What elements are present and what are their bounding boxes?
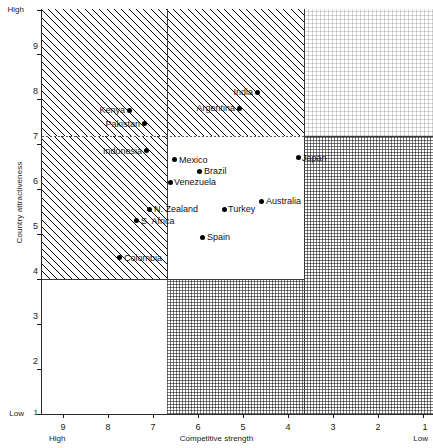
data-point-argentina[interactable] [237,106,242,111]
y-tick-9: 9 [2,42,38,51]
data-point-venezuela[interactable] [168,180,173,185]
data-point-label-brazil: Brazil [204,167,227,176]
x-axis-title: Competitive strength [0,434,433,443]
data-point-safrica[interactable] [134,218,139,223]
data-point-kenya[interactable] [127,108,132,113]
y-axis-ticks: High Low 9 8 7 6 5 4 3 2 1 [0,0,38,448]
data-point-label-turkey: Turkey [228,205,255,214]
data-point-turkey[interactable] [222,207,227,212]
x-tick-5: 5 [231,422,255,432]
data-point-label-spain: Spain [207,233,230,242]
plot-area: Kenya Pakistan Indonesia India Argentina… [41,9,433,415]
y-tick-8: 8 [2,87,38,96]
data-point-label-nzealand: N. Zealand [154,205,198,214]
y-tick-4: 4 [2,267,38,276]
data-point-spain[interactable] [200,235,205,240]
x-tick-6: 6 [186,422,210,432]
data-point-label-safrica: S. Africa [141,216,175,225]
zone-harvest-divest-lower [167,279,304,414]
zone-divider-vertical-right [304,9,305,414]
zone-divider-horizontal-low [42,279,304,280]
y-tick-7: 7 [2,132,38,141]
x-tick-1: 1 [413,422,433,432]
y-axis-top-label: High [8,5,24,14]
y-tick-5: 5 [2,222,38,231]
data-point-label-kenya: Kenya [99,106,125,115]
data-point-label-pakistan: Pakistan [105,119,140,128]
x-tick-8: 8 [96,422,120,432]
data-point-japan[interactable] [296,155,301,160]
zone-divider-vertical-mid [167,9,168,279]
country-portfolio-matrix-chart: Country attractiveness High Low 9 8 7 6 … [0,0,433,448]
zone-harvest-divest-right [304,136,433,414]
data-point-mexico[interactable] [172,157,177,162]
data-point-label-india: India [233,88,253,97]
data-point-label-mexico: Mexico [179,155,208,164]
y-tick-6: 6 [2,177,38,186]
x-tick-4: 4 [276,422,300,432]
data-point-label-colombia: Colombia [124,253,162,262]
data-point-label-venezuela: Venezuela [174,178,216,187]
zone-dominate-licence [304,9,433,136]
data-point-label-argentina: Argentina [196,104,235,113]
data-point-label-australia: Australia [266,197,301,206]
zone-divider-horizontal-mid [304,136,433,137]
x-tick-7: 7 [141,422,165,432]
data-point-brazil[interactable] [197,169,202,174]
x-axis-right-label: Low [413,434,428,443]
x-tick-3: 3 [321,422,345,432]
x-tick-9: 9 [51,422,75,432]
zone-invest-grow-upper [42,9,304,136]
x-tick-2: 2 [366,422,390,432]
y-tick-3: 3 [2,312,38,321]
data-point-label-indonesia: Indonesia [103,146,142,155]
data-point-label-japan: Japan [302,153,327,162]
y-tick-2: 2 [2,357,38,366]
zone-divider-horizontal-upper [42,136,304,137]
data-point-australia[interactable] [259,199,264,204]
